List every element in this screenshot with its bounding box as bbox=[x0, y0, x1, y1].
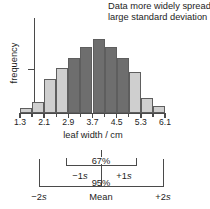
histogram-bar bbox=[68, 58, 80, 113]
histogram-bar bbox=[44, 79, 56, 113]
histogram-bar bbox=[129, 72, 141, 113]
outer-bracket-right-leg bbox=[163, 159, 164, 187]
minus-one-sd-label: −1s bbox=[72, 171, 87, 181]
minus-two-sd-label: −2s bbox=[31, 192, 46, 202]
outer-percent-label: 95% bbox=[92, 178, 111, 188]
x-axis-minor-tick bbox=[80, 113, 81, 117]
x-axis-title: leaf width / cm bbox=[20, 130, 166, 140]
histogram-bar bbox=[117, 58, 129, 113]
y-axis-tick bbox=[28, 69, 34, 70]
x-axis-minor-tick bbox=[31, 113, 32, 117]
x-axis-tick-label: 3.7 bbox=[87, 117, 99, 127]
inner-percent-label: 67% bbox=[92, 156, 111, 166]
mean-label: Mean bbox=[89, 192, 112, 202]
histogram-bar bbox=[56, 68, 68, 112]
histogram-bar bbox=[105, 47, 117, 112]
plus-one-sd-label: +1s bbox=[116, 171, 131, 181]
x-axis-tick-label: 6.1 bbox=[159, 117, 171, 127]
x-axis-tick-labels: 1.32.12.93.74.55.36.1 bbox=[0, 117, 210, 129]
x-axis-minor-tick bbox=[152, 113, 153, 117]
y-axis-line bbox=[34, 18, 35, 113]
histogram-bar bbox=[80, 47, 92, 112]
x-axis-minor-tick bbox=[128, 113, 129, 117]
x-axis-tick-label: 2.1 bbox=[38, 117, 50, 127]
x-axis-tick-label: 1.3 bbox=[14, 117, 26, 127]
x-axis-minor-tick bbox=[56, 113, 57, 117]
x-axis-tick-label: 4.5 bbox=[111, 117, 123, 127]
histogram-bar bbox=[20, 108, 32, 112]
statistics-figure: Data more widely spread: large standard … bbox=[0, 0, 210, 209]
inner-bracket-right-leg bbox=[136, 158, 137, 165]
inner-bracket-left-leg bbox=[66, 158, 67, 165]
x-axis-tick-label: 2.9 bbox=[62, 117, 74, 127]
x-axis-minor-tick bbox=[104, 113, 105, 117]
x-axis-tick-label: 5.3 bbox=[135, 117, 147, 127]
plus-two-sd-label: +2s bbox=[155, 192, 170, 202]
outer-bracket-left-leg bbox=[39, 159, 40, 187]
histogram-bar bbox=[32, 102, 44, 113]
histogram-bar bbox=[141, 98, 153, 112]
histogram-bar bbox=[153, 106, 165, 113]
histogram-bar bbox=[93, 39, 105, 112]
